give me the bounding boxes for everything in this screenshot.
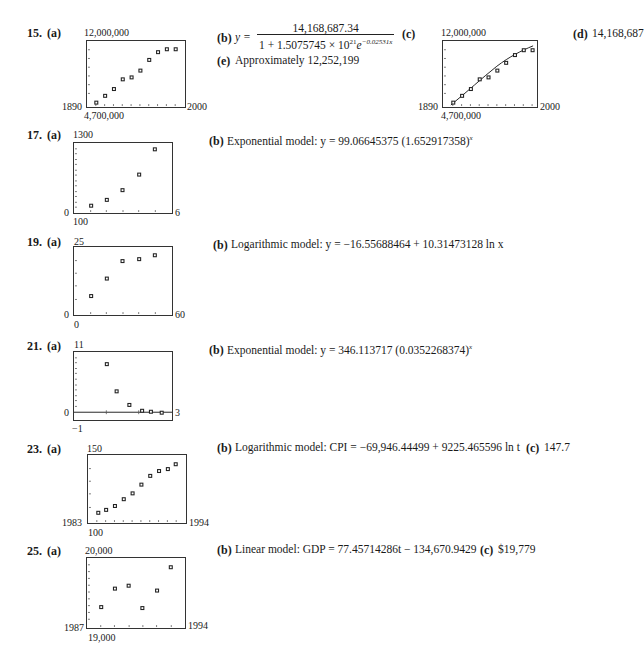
x-min-label: 1983 — [62, 517, 82, 528]
exponent-21: 21 — [350, 38, 357, 46]
part-a-label: (a) — [47, 235, 61, 250]
x-min-label: 0 — [64, 309, 69, 320]
scatter-plot-15a — [86, 40, 186, 108]
part-b-label: (b) — [209, 343, 224, 358]
scatter-plot-21a — [73, 351, 173, 421]
problem-number: 19. — [27, 235, 42, 250]
plot-graphics — [74, 352, 172, 420]
part-a-label: (a) — [47, 442, 61, 457]
part-d-label: (d) — [573, 27, 588, 42]
part-c-answer: $19,779 — [498, 543, 535, 555]
problem-number: 21. — [27, 339, 42, 354]
x-max-label: 6 — [175, 207, 180, 218]
y-min-label: −1 — [72, 423, 83, 434]
scatter-plot-19a — [73, 246, 173, 316]
y-max-label: 20,000 — [85, 545, 113, 556]
plot-graphics — [74, 143, 172, 213]
y-max-label: 150 — [87, 443, 102, 454]
problem-number: 23. — [27, 442, 42, 457]
problem-number: 17. — [27, 128, 42, 143]
part-b-label: (b) — [217, 441, 232, 456]
x-min-label: 1890 — [418, 101, 438, 112]
plot-graphics — [87, 558, 185, 628]
part-b-model: Logarithmic model: CPI = −69,946.44499 +… — [235, 441, 520, 453]
plot-graphics — [443, 41, 537, 107]
equation-lhs: y = — [235, 31, 251, 43]
x-max-label: 60 — [175, 309, 185, 320]
part-c-answer: 147.7 — [544, 441, 570, 453]
part-b-label: (b) — [217, 31, 232, 46]
y-min-label: 4,700,000 — [441, 110, 481, 121]
problem-number: 15. — [27, 26, 42, 41]
x-min-label: 1987 — [64, 622, 84, 633]
part-a-label: (a) — [47, 26, 61, 41]
x-max-label: 1994 — [189, 517, 209, 528]
logistic-equation-fraction: 14,168,687.34 1 + 1.5075745 × 1021e−0.02… — [257, 22, 394, 51]
x-max-label: 2000 — [187, 101, 207, 112]
exponent: x — [470, 134, 473, 142]
plot-graphics — [88, 455, 186, 523]
exponent-rate: −0.02531x — [362, 38, 393, 46]
scatter-plot-17a — [73, 142, 173, 214]
part-b-model: Exponential model: y = 346.113717 (0.035… — [227, 343, 472, 356]
x-min-label: 0 — [64, 407, 69, 418]
part-b-label: (b) — [217, 543, 232, 558]
part-b-model: Linear model: GDP = 77.45714286t − 134,6… — [235, 543, 477, 555]
part-b-label: (b) — [213, 238, 228, 253]
y-max-label: 12,000,000 — [84, 27, 129, 38]
part-d-answer: 14,168,687 — [592, 27, 644, 39]
scatter-plot-25a — [86, 557, 186, 629]
denominator: 1 + 1.5075745 × 1021e−0.02531x — [257, 34, 394, 51]
part-b-model: Exponential model: y = 99.06645375 (1.65… — [227, 134, 473, 147]
part-e-label: (e) — [217, 54, 230, 69]
x-min-label: 0 — [64, 207, 69, 218]
y-min-label: 100 — [88, 527, 103, 538]
x-min-label: 1890 — [62, 101, 82, 112]
y-max-label: 1300 — [73, 129, 93, 140]
model-equation: Exponential model: y = 346.113717 (0.035… — [227, 344, 469, 356]
part-c-label: (c) — [480, 543, 493, 558]
part-b-model: Logarithmic model: y = −16.55688464 + 10… — [231, 238, 503, 250]
y-min-label: 19,000 — [88, 632, 116, 643]
part-c-label: (c) — [526, 441, 539, 456]
scatter-plot-15c — [442, 40, 538, 108]
problem-number: 25. — [27, 544, 42, 559]
part-a-label: (a) — [47, 128, 61, 143]
part-a-label: (a) — [47, 544, 61, 559]
plot-graphics — [74, 247, 172, 315]
part-e-answer: Approximately 12,252,199 — [235, 54, 359, 66]
model-equation: Exponential model: y = 99.06645375 (1.65… — [227, 135, 470, 147]
y-max-label: 12,000,000 — [441, 27, 486, 38]
x-max-label: 3 — [175, 407, 180, 418]
x-max-label: 2000 — [540, 101, 560, 112]
part-a-label: (a) — [47, 339, 61, 354]
y-max-label: 11 — [74, 339, 84, 350]
plot-graphics — [87, 41, 185, 107]
scatter-plot-23a — [87, 454, 187, 524]
denominator-base: 1 + 1.5075745 × 10 — [259, 39, 350, 51]
y-min-label: 100 — [73, 216, 88, 227]
y-min-label: 0 — [74, 319, 79, 330]
numerator: 14,168,687.34 — [291, 22, 361, 34]
part-c-label: (c) — [402, 27, 415, 42]
part-b-label: (b) — [209, 134, 224, 149]
x-max-label: 1994 — [188, 620, 208, 631]
y-min-label: 4,700,000 — [84, 110, 124, 121]
exponent: x — [469, 343, 472, 351]
